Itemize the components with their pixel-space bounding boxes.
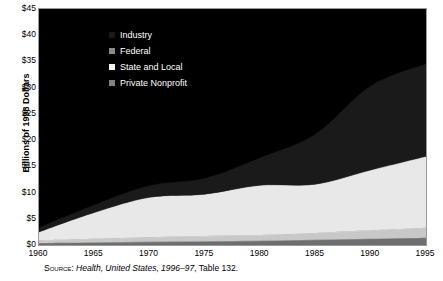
source-publication: Health, United States, 1996–97 <box>76 263 194 273</box>
x-axis-tick-labels: 19601965197019751980198519901995 <box>0 0 443 281</box>
x-tick-label: 1995 <box>405 248 443 258</box>
legend-label: Industry <box>120 30 152 40</box>
legend-item: Industry <box>109 28 187 42</box>
legend-item: Federal <box>109 44 187 58</box>
source-prefix: Source: <box>44 263 74 273</box>
x-tick-label: 1970 <box>129 248 169 258</box>
source-suffix: , Table 132. <box>194 263 238 273</box>
x-tick-label: 1985 <box>294 248 334 258</box>
legend-swatch-icon <box>109 64 115 70</box>
legend-swatch-icon <box>109 80 115 86</box>
legend-swatch-icon <box>109 32 115 38</box>
figure: Billions of 1998 Dollars $0$5$10$15$20$2… <box>0 0 443 281</box>
x-tick-label: 1975 <box>184 248 224 258</box>
x-tick-label: 1990 <box>350 248 390 258</box>
legend-item: State and Local <box>109 60 187 74</box>
x-tick-label: 1980 <box>239 248 279 258</box>
legend-label: Private Nonprofit <box>120 78 187 88</box>
legend-item: Private Nonprofit <box>109 76 187 90</box>
legend: IndustryFederalState and LocalPrivate No… <box>109 28 187 92</box>
legend-label: Federal <box>120 46 151 56</box>
x-tick-label: 1965 <box>73 248 113 258</box>
legend-swatch-icon <box>109 48 115 54</box>
x-tick-label: 1960 <box>18 248 58 258</box>
source-note: Source: Health, United States, 1996–97, … <box>44 263 238 273</box>
legend-label: State and Local <box>120 62 183 72</box>
